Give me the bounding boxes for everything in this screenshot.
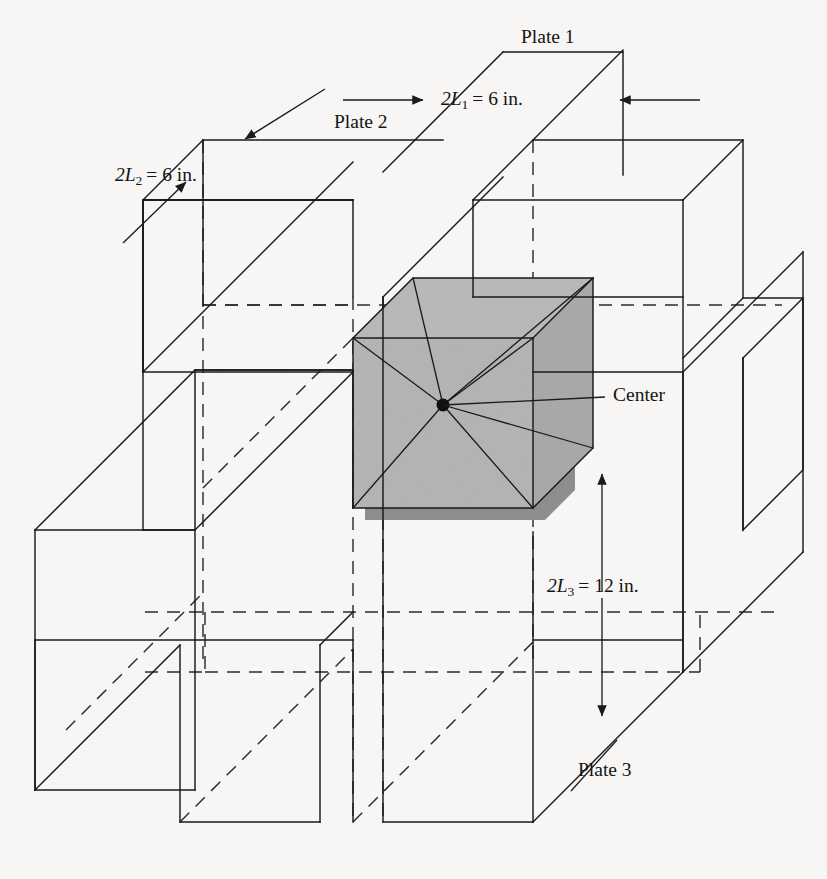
plate-2-leader — [245, 89, 325, 139]
plate-3-label: Plate 3 — [578, 759, 632, 780]
plate2-lower-diag-bottom — [35, 645, 180, 790]
dimension-2l2-group: 2L2 = 6 in. — [115, 164, 197, 243]
plate-2-label-group: Plate 2 — [245, 89, 388, 139]
dimension-2l3-group: 2L3 = 12 in. — [547, 474, 639, 716]
dim-2l1-label: 2L1 = 6 in. — [441, 88, 523, 112]
hidden-edge — [203, 338, 353, 488]
hidden-edge — [180, 649, 353, 822]
dimension-2l1-group: 2L1 = 6 in. — [343, 88, 700, 112]
plate-2-label: Plate 2 — [334, 111, 388, 132]
plate-1-label: Plate 1 — [521, 26, 575, 47]
hidden-edge — [66, 591, 205, 730]
dim-2l2-label: 2L2 = 6 in. — [115, 164, 197, 188]
plate1-right-appendix — [743, 298, 803, 530]
plate2-upper-face — [143, 200, 353, 297]
dim-2l2-arrow — [123, 182, 186, 243]
plate2-long-diag-2 — [195, 372, 353, 530]
plate1-upper-block-face — [473, 140, 533, 200]
plate1-upper-right-diag — [683, 140, 743, 200]
hidden-edge — [353, 642, 533, 822]
plate1-right-appendix-edge — [743, 298, 803, 358]
figure-root: 2L1 = 6 in. 2L2 = 6 in. 2L3 = 12 in. Pla… — [0, 0, 827, 879]
dim-2l3-label: 2L3 = 12 in. — [547, 575, 639, 599]
plate1-top-face-left — [383, 52, 503, 172]
isometric-plates-diagram: 2L1 = 6 in. 2L2 = 6 in. 2L3 = 12 in. Pla… — [0, 0, 827, 879]
plate-3-label-group: Plate 3 — [571, 740, 632, 791]
plate2-lower-diag-top — [35, 370, 195, 530]
plate2-lower-outline — [35, 370, 353, 530]
plate1-top-edge-back — [533, 50, 623, 140]
center-label: Center — [613, 384, 665, 405]
plate-1-label-group: Plate 1 — [521, 26, 575, 47]
plate1-lower-diagonal — [533, 672, 683, 822]
